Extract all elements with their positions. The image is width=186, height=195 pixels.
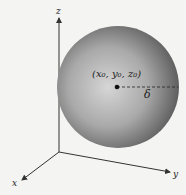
center-point [115, 85, 120, 90]
y-axis [59, 152, 170, 172]
sphere-diagram [0, 0, 186, 195]
center-label: (x₀, y₀, z₀) [92, 68, 141, 79]
x-axis-label: x [12, 178, 17, 188]
radius-label: δ [144, 88, 151, 101]
y-axis-label: y [173, 169, 178, 179]
z-axis-label: z [56, 6, 61, 16]
x-axis [22, 152, 59, 180]
